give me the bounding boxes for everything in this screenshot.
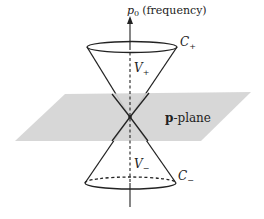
plane-label: p-plane (165, 111, 211, 125)
lower-cone-label: C− (178, 169, 194, 185)
lower-volume-label: V− (134, 157, 149, 173)
axis-arrow-icon (127, 16, 133, 24)
p-plane (15, 92, 251, 141)
light-cone-diagram: p0(frequency) C+ V+ p-plane V− C− (0, 0, 264, 219)
upper-volume-label: V+ (134, 61, 149, 77)
axis-label: p0(frequency) (127, 4, 207, 18)
apex-point (128, 115, 132, 119)
upper-cone-label: C+ (180, 35, 196, 51)
